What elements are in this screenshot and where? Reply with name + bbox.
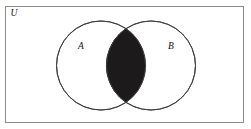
set-a-label: A xyxy=(77,41,84,51)
set-b-label: B xyxy=(168,41,174,51)
venn-diagram-canvas: U A B xyxy=(0,0,251,129)
venn-diagram-figure: U A B xyxy=(0,0,251,129)
universe-label: U xyxy=(11,8,19,18)
